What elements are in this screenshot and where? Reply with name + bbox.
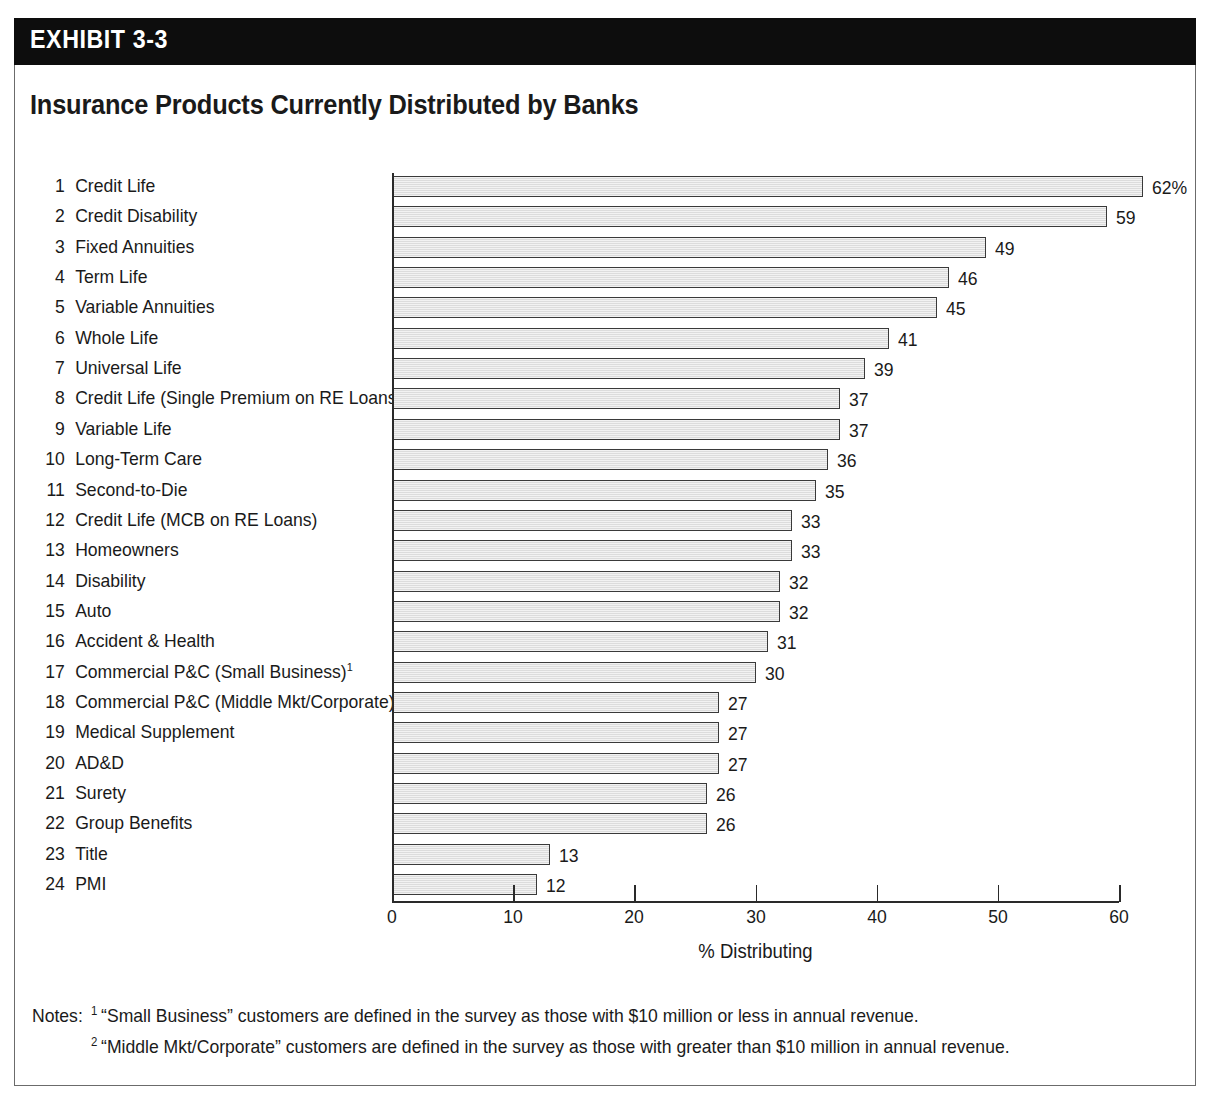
note-marker-1: 1 [91, 1004, 97, 1018]
exhibit-header-band: EXHIBIT 3-3 [14, 18, 1196, 65]
exhibit-frame [14, 18, 1196, 1086]
note-text-1: “Small Business” customers are defined i… [101, 1005, 919, 1026]
note-line-1: Notes:1“Small Business” customers are de… [32, 1000, 1115, 1031]
notes-block: Notes:1“Small Business” customers are de… [32, 1000, 1115, 1062]
exhibit-number-label: EXHIBIT 3-3 [30, 25, 168, 54]
page-title: Insurance Products Currently Distributed… [30, 90, 639, 121]
note-marker-2: 2 [91, 1035, 97, 1049]
notes-label: Notes: [32, 1000, 91, 1031]
note-text-2: “Middle Mkt/Corporate” customers are def… [101, 1036, 1010, 1057]
note-line-2: 2“Middle Mkt/Corporate” customers are de… [32, 1031, 1115, 1062]
